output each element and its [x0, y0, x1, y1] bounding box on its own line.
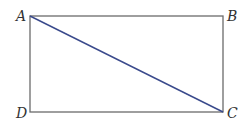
vertex-label-b: B	[227, 9, 237, 23]
vertex-label-c: C	[227, 106, 238, 120]
vertex-label-a: A	[16, 9, 26, 23]
diagram-svg	[0, 0, 248, 127]
rectangle-diagram: A B C D	[0, 0, 248, 127]
diagonal-ac	[30, 16, 223, 112]
vertex-label-d: D	[16, 106, 27, 120]
